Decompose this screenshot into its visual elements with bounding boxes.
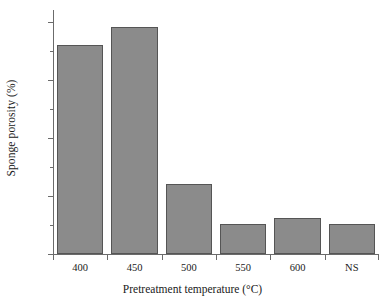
x-tick-label: 600	[268, 262, 328, 273]
y-tick-minor	[50, 225, 54, 226]
y-tick-major	[48, 196, 54, 197]
x-tick	[270, 255, 271, 260]
bar	[220, 224, 266, 254]
y-tick-major	[48, 138, 54, 139]
bar	[166, 184, 212, 254]
y-axis-title: Sponge porosity (%)	[0, 0, 22, 256]
x-tick	[378, 255, 379, 260]
y-tick-major	[48, 22, 54, 23]
x-tick	[107, 255, 108, 260]
bar	[57, 45, 103, 254]
x-tick-label: 550	[213, 262, 273, 273]
x-tick	[325, 255, 326, 260]
bar-chart-figure: Sponge porosity (%) 010203040 4004505005…	[0, 0, 385, 306]
x-tick-label: 450	[105, 262, 165, 273]
y-tick-minor	[50, 109, 54, 110]
x-tick	[216, 255, 217, 260]
bar	[111, 27, 157, 254]
y-tick-minor	[50, 167, 54, 168]
x-tick-label: NS	[322, 262, 382, 273]
bar	[329, 224, 375, 254]
plot-area: 010203040 400450500550600NS	[53, 10, 379, 255]
y-axis-title-text: Sponge porosity (%)	[5, 79, 17, 176]
x-tick-label: 400	[50, 262, 110, 273]
x-tick	[53, 255, 54, 260]
y-axis-line	[53, 10, 54, 255]
x-axis-title: Pretreatment temperature (°C)	[0, 283, 385, 295]
x-tick-label: 500	[159, 262, 219, 273]
y-tick-minor	[50, 51, 54, 52]
x-tick	[162, 255, 163, 260]
bar	[274, 218, 320, 254]
y-tick-major	[48, 80, 54, 81]
